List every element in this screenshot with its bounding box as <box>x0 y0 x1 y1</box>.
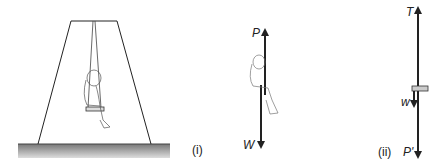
label-t: T <box>406 5 415 19</box>
swing-rope-left <box>88 21 93 108</box>
caption-ii: (ii) <box>378 145 391 159</box>
swing-force-diagram: (i) P W T w P' (ii) <box>0 0 444 167</box>
label-p-prime: P' <box>403 145 414 159</box>
ground <box>18 144 170 158</box>
label-p: P <box>252 26 260 40</box>
swing-scene <box>18 21 170 158</box>
label-w-lower: w <box>401 95 411 109</box>
child-figure <box>84 70 110 128</box>
force-diagram-ii <box>412 10 428 155</box>
seat-block <box>412 86 428 91</box>
caption-i: (i) <box>192 143 203 157</box>
swing-frame <box>38 21 151 144</box>
label-w-upper: W <box>243 138 256 152</box>
force-diagram-i <box>250 32 278 145</box>
